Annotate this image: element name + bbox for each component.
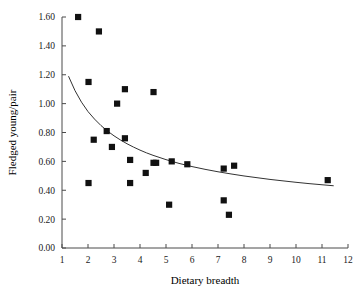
y-tick-label: 1.20	[38, 70, 55, 80]
data-point	[122, 135, 128, 141]
data-point	[109, 144, 115, 150]
data-point	[127, 180, 133, 186]
scatter-plot: 0.000.200.400.600.801.001.201.401.60 123…	[0, 0, 359, 295]
x-tick-label: 2	[86, 255, 91, 265]
x-tick-label: 6	[190, 255, 195, 265]
data-point	[114, 101, 120, 107]
data-point	[166, 202, 172, 208]
data-point	[221, 165, 227, 171]
x-tick-label: 4	[138, 255, 143, 265]
data-point	[127, 157, 133, 163]
x-tick-label: 10	[291, 255, 301, 265]
x-tick-label: 11	[317, 255, 326, 265]
y-tick-label: 1.00	[38, 99, 55, 109]
x-tick-label: 1	[60, 255, 65, 265]
data-point	[226, 212, 232, 218]
x-tick-label: 8	[242, 255, 247, 265]
data-point	[75, 14, 81, 20]
data-point	[169, 158, 175, 164]
y-axis-tick-labels: 0.000.200.400.600.801.001.201.401.60	[38, 12, 55, 253]
x-tick-label: 3	[112, 255, 117, 265]
data-point	[150, 89, 156, 95]
y-tick-label: 1.40	[38, 41, 55, 51]
data-point	[153, 160, 159, 166]
y-axis-title: Fledged young/pair	[6, 89, 18, 175]
y-tick-label: 0.00	[38, 243, 55, 253]
data-point	[231, 163, 237, 169]
x-axis-title: Dietary breadth	[171, 274, 240, 286]
x-axis-tick-labels: 123456789101112	[60, 255, 353, 265]
data-point	[221, 197, 227, 203]
y-tick-label: 0.20	[38, 215, 55, 225]
x-tick-label: 12	[343, 255, 353, 265]
y-tick-label: 0.60	[38, 157, 55, 167]
data-point	[85, 79, 91, 85]
chart-figure: 0.000.200.400.600.801.001.201.401.60 123…	[0, 0, 359, 295]
data-point	[184, 161, 190, 167]
x-tick-label: 9	[268, 255, 273, 265]
data-point	[122, 86, 128, 92]
data-point	[96, 28, 102, 34]
data-point	[325, 177, 331, 183]
data-point	[143, 170, 149, 176]
data-point	[104, 128, 110, 134]
data-point	[85, 180, 91, 186]
y-tick-label: 0.80	[38, 128, 55, 138]
y-tick-label: 1.60	[38, 12, 55, 22]
y-tick-label: 0.40	[38, 186, 55, 196]
data-point	[91, 137, 97, 143]
x-tick-label: 5	[164, 255, 169, 265]
x-tick-label: 7	[216, 255, 221, 265]
data-points-group	[75, 14, 331, 218]
